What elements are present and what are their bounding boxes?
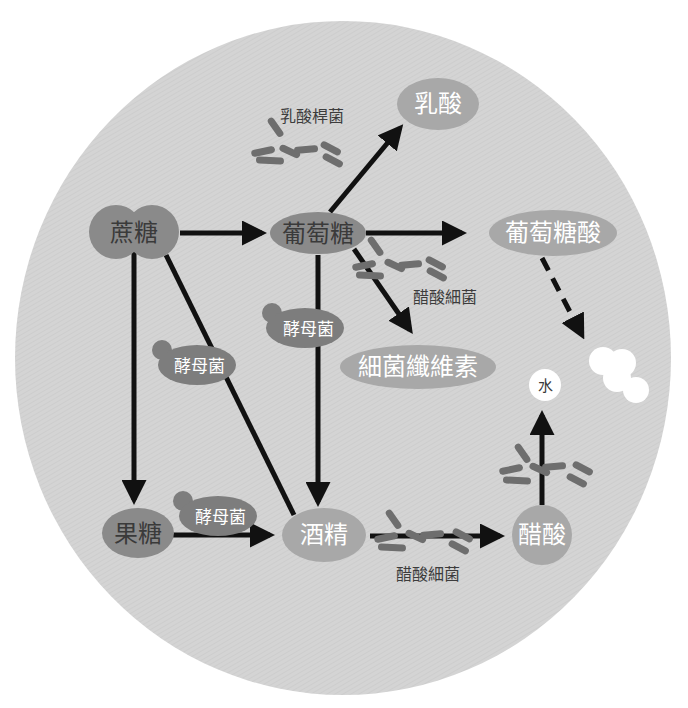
label-gluconic-acid: 葡萄糖酸 [505, 221, 601, 245]
diagram-canvas [0, 0, 688, 708]
label-yeast-left: 酵母菌 [174, 358, 225, 375]
label-fructose: 果糖 [114, 522, 162, 546]
label-water: 水 [538, 379, 553, 394]
label-glucose: 葡萄糖 [282, 222, 354, 246]
label-lactobacillus: 乳酸桿菌 [280, 109, 344, 125]
label-yeast-center: 酵母菌 [283, 321, 334, 338]
label-sucrose: 蔗糖 [110, 221, 158, 245]
label-bacterial-cellulose: 細菌纖維素 [358, 355, 478, 379]
fermentation-diagram: 蔗糖 葡萄糖 乳酸 葡萄糖酸 細菌纖維素 果糖 酒精 醋酸 水 乳酸桿菌 醋酸細… [0, 0, 688, 708]
label-acetic-acid: 醋酸 [518, 523, 566, 547]
label-yeast-bottom: 酵母菌 [195, 509, 246, 526]
label-lactic-acid: 乳酸 [414, 92, 462, 116]
label-acetobacter-top: 醋酸細菌 [413, 290, 477, 306]
label-ethanol: 酒精 [300, 523, 348, 547]
label-acetobacter-bottom: 醋酸細菌 [396, 567, 460, 583]
